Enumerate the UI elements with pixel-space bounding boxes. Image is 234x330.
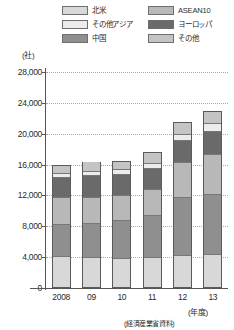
bar-segment: [53, 166, 70, 175]
plot-area: [46, 72, 228, 288]
legend-swatch-europe: [148, 20, 174, 29]
bar-2008: [52, 165, 71, 288]
x-axis-tick-label: 2008: [52, 292, 70, 302]
bar-segment: [113, 259, 130, 287]
y-axis-tick-label: 28,000: [0, 68, 42, 76]
chart-plot-wrapper: 04,0008,00012,00016,00020,00024,00028,00…: [0, 60, 234, 295]
legend-item-china: 中国: [62, 31, 142, 45]
bar-segment: [144, 190, 161, 216]
y-axis-tick-label: 24,000: [0, 99, 42, 107]
bar-segment: [204, 195, 221, 255]
legend-swatch-china: [62, 34, 88, 43]
bar-segment: [83, 258, 100, 287]
gridline: [46, 165, 228, 166]
gridline: [46, 72, 228, 73]
y-axis-tick-label: 20,000: [0, 130, 42, 138]
x-axis-line: [30, 288, 228, 289]
gridline: [46, 195, 228, 196]
gridline: [46, 134, 228, 135]
gridline: [46, 226, 228, 227]
legend-label-china: 中国: [92, 34, 106, 43]
bar-segment: [174, 198, 191, 256]
gridline: [46, 103, 228, 104]
x-axis-unit-label: (年度): [188, 306, 208, 317]
bar-segment: [144, 153, 161, 163]
bar-segment: [204, 132, 221, 155]
bar-09: [82, 162, 101, 289]
gridline: [46, 257, 228, 258]
bar-13: [203, 111, 222, 288]
legend-item-other: その他: [148, 31, 228, 45]
bar-segment: [204, 255, 221, 287]
bar-segment: [83, 162, 100, 172]
legend-item-other-asia: その他アジア: [62, 17, 142, 31]
x-axis-tick-label: 11: [148, 292, 156, 302]
bar-segment: [174, 141, 191, 162]
x-axis-tick-labels: 20080910111213: [46, 292, 228, 306]
legend-swatch-asean10: [148, 6, 174, 15]
legend-label-europe: ヨーロッパ: [178, 20, 212, 29]
source-note: (経済産業省資料): [124, 318, 174, 328]
legend-item-europe: ヨーロッパ: [148, 17, 228, 31]
legend-swatch-north-america: [62, 6, 88, 15]
legend-label-other-asia: その他アジア: [92, 20, 133, 29]
y-axis-tick-labels: 04,0008,00012,00016,00020,00024,00028,00…: [0, 72, 42, 288]
y-axis-unit-label: (社): [22, 49, 34, 60]
bar-segment: [53, 178, 70, 199]
y-axis-tick-label: 8,000: [0, 222, 42, 230]
bar-segment: [144, 216, 161, 258]
bar-10: [112, 161, 131, 288]
bar-segment: [174, 123, 191, 134]
bar-segment: [113, 162, 130, 171]
bar-segment: [144, 169, 161, 190]
bar-segment: [204, 155, 221, 195]
legend-swatch-other: [148, 34, 174, 43]
bar-segment: [83, 198, 100, 224]
bar-12: [173, 122, 192, 288]
x-axis-tick-label: 10: [117, 292, 126, 302]
x-axis-tick-label: 13: [208, 292, 217, 302]
bar-segment: [113, 196, 130, 221]
x-axis-tick-label: 12: [178, 292, 187, 302]
y-axis-tick-label: 12,000: [0, 191, 42, 199]
legend-item-north-america: 北米: [62, 3, 142, 17]
legend-label-other: その他: [178, 34, 198, 43]
bar-11: [143, 152, 162, 288]
bar-segment: [204, 112, 221, 125]
bar-segment: [53, 198, 70, 225]
bar-segment: [174, 135, 191, 142]
legend-label-asean10: ASEAN10: [178, 6, 210, 15]
bar-segment: [174, 163, 191, 198]
bar-segment: [83, 224, 100, 258]
legend-swatch-other-asia: [62, 20, 88, 29]
x-axis-tick-label: 09: [87, 292, 96, 302]
bar-segment: [113, 175, 130, 196]
chart-legend: 北米 ASEAN10 その他アジア ヨーロッパ 中国 その他: [62, 3, 228, 45]
bar-segment: [53, 225, 70, 258]
bar-segment: [204, 124, 221, 132]
y-axis-tick-label: 16,000: [0, 161, 42, 169]
legend-item-asean10: ASEAN10: [148, 3, 228, 17]
legend-label-north-america: 北米: [92, 6, 106, 15]
bar-segment: [144, 258, 161, 287]
y-axis-tick-label: 4,000: [0, 253, 42, 261]
bar-segment: [174, 256, 191, 287]
bar-segment: [83, 176, 100, 198]
bar-segment: [113, 221, 130, 259]
bar-segment: [53, 257, 70, 287]
